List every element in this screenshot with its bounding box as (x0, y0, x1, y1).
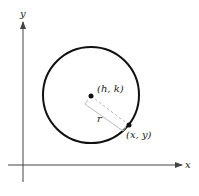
circle-diagram: x y r (h, k) (x, y) (0, 0, 199, 196)
radius-bracket (85, 100, 126, 131)
x-axis-label: x (185, 159, 191, 170)
y-axis-label: y (19, 8, 26, 19)
radius-label: r (97, 113, 103, 124)
center-label: (h, k) (97, 83, 124, 94)
circle-point (127, 123, 132, 128)
center-point (89, 94, 94, 99)
point-label: (x, y) (126, 129, 152, 140)
